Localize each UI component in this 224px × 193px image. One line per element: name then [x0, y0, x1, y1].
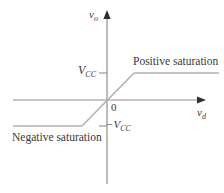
neg-vcc-label-base: −V: [106, 118, 120, 130]
x-axis-label: vd: [197, 106, 206, 119]
neg-vcc-label-sub: CC: [120, 124, 131, 133]
negative-saturation-annotation: Negative saturation: [12, 131, 102, 144]
y-axis-arrowhead-icon: [103, 10, 110, 19]
neg-vcc-tick-label: −VCC: [106, 118, 131, 131]
x-axis-arrowhead-icon: [197, 96, 206, 103]
y-axis-label: vo: [78, 8, 98, 21]
positive-saturation-annotation: Positive saturation: [133, 55, 218, 68]
x-axis-label-sub: d: [202, 112, 206, 121]
plot-canvas: [0, 0, 224, 193]
vcc-label-sub: CC: [85, 70, 96, 79]
vcc-tick-label: VCC: [63, 64, 96, 77]
y-axis-label-sub: o: [94, 14, 98, 23]
origin-label: 0: [111, 101, 117, 113]
opamp-transfer-characteristic-figure: vo VCC Positive saturation 0 vd −VCC Neg…: [0, 0, 224, 193]
